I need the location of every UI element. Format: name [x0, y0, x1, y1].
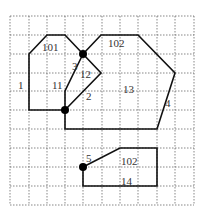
label-12: 12 — [80, 68, 91, 80]
label-13: 13 — [123, 83, 135, 95]
grid-polygon-diagram: 101 1 11 3 12 2 102 13 4 5 102 14 — [0, 0, 200, 215]
label-102-bottom: 102 — [121, 155, 138, 167]
node-dot-top — [79, 50, 87, 58]
label-11: 11 — [52, 79, 63, 91]
label-2: 2 — [86, 90, 92, 102]
label-3: 3 — [72, 60, 78, 72]
label-1: 1 — [18, 79, 24, 91]
labels: 101 1 11 3 12 2 102 13 4 5 102 14 — [18, 37, 171, 187]
label-102-top: 102 — [108, 37, 125, 49]
label-14: 14 — [121, 175, 133, 187]
label-5: 5 — [86, 152, 92, 164]
node-dot-bottom — [79, 163, 87, 171]
label-101-top: 101 — [42, 41, 59, 53]
label-4: 4 — [165, 97, 171, 109]
node-dot-mid — [61, 106, 69, 114]
